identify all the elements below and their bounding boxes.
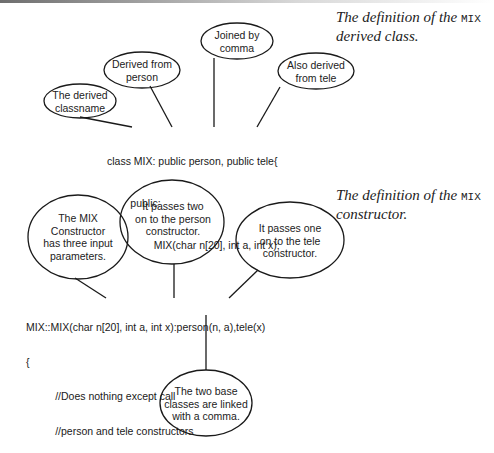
pointer-line: [150, 86, 172, 127]
callout-text-passes-two-to-person: It passes two on to the person construct…: [125, 200, 221, 238]
callout-line: person: [104, 71, 180, 84]
callout-line: constructor.: [125, 225, 221, 238]
callout-line: classname: [44, 102, 116, 115]
callout-text-derived-classname: The derived classname: [44, 89, 116, 114]
pointer-line: [75, 278, 106, 298]
callout-line: It passes one: [243, 222, 337, 235]
callout-line: Also derived: [278, 59, 354, 72]
caption-text: The definition of the: [336, 9, 461, 25]
callout-line: from tele: [278, 72, 354, 85]
caption-code: MIX: [461, 191, 481, 203]
code-line: {: [26, 357, 265, 369]
callout-text-three-input-parameters: The MIX Constructor has three input para…: [33, 212, 123, 262]
caption-code: MIX: [461, 13, 481, 25]
callout-text-derived-from-person: Derived from person: [104, 58, 180, 83]
callout-line: It passes two: [125, 200, 221, 213]
callout-line: Derived from: [104, 58, 180, 71]
figure2-caption: The definition of the MIX constructor.: [336, 187, 494, 223]
caption-text: constructor.: [336, 206, 407, 222]
callout-text-also-derived-from-tele: Also derived from tele: [278, 59, 354, 84]
pointer-line: [257, 87, 280, 127]
code-line: MIX::MIX(char n[20], int a, int x):perso…: [26, 322, 265, 334]
callout-line: Joined by: [201, 29, 273, 42]
code-line: class MIX: public person, public tele{: [107, 154, 280, 168]
callout-text-passes-one-to-tele: It passes one on to the tele constructor…: [243, 222, 337, 260]
code-line: //person and tele constructors: [26, 426, 265, 438]
callout-line: has three input: [33, 237, 123, 250]
callout-line: on to the person: [125, 213, 221, 226]
callout-line: The MIX: [33, 212, 123, 225]
constructor-definition-code: MIX::MIX(char n[20], int a, int x):perso…: [26, 299, 265, 453]
callout-line: constructor.: [243, 247, 337, 260]
caption-text: derived class.: [336, 28, 418, 44]
callout-text-joined-by-comma: Joined by comma: [201, 29, 273, 54]
callout-line: parameters.: [33, 250, 123, 263]
callout-line: on to the tele: [243, 235, 337, 248]
caption-text: The definition of the: [336, 187, 461, 203]
callout-line: comma: [201, 42, 273, 55]
callout-line: Constructor: [33, 225, 123, 238]
code-line: //Does nothing except call: [26, 391, 265, 403]
callout-line: The derived: [44, 89, 116, 102]
pointer-line: [229, 270, 258, 298]
figure1-caption: The definition of the MIX derived class.: [336, 9, 494, 45]
